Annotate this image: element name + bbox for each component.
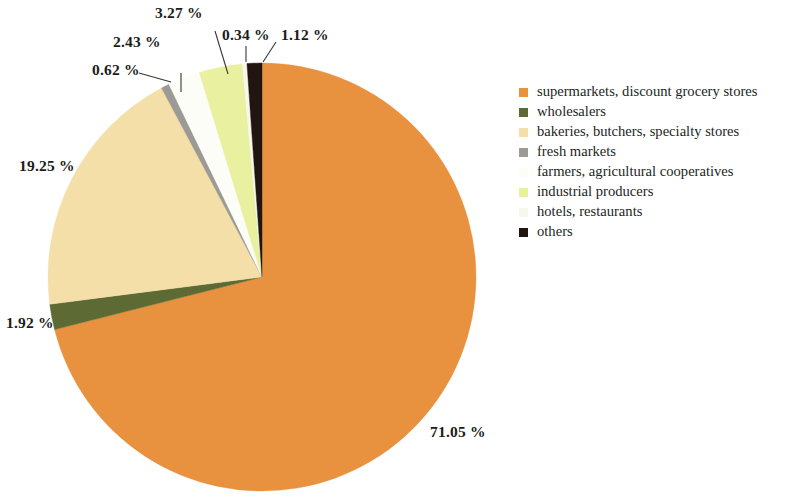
pie-label-wholesalers: 1.92 % bbox=[6, 314, 54, 332]
pie-label-bakeries-butchers: 19.25 % bbox=[19, 157, 75, 175]
legend-swatch-icon bbox=[519, 208, 528, 217]
legend-item-fresh-markets[interactable]: fresh markets bbox=[519, 142, 787, 161]
leader-line-fresh-markets bbox=[139, 73, 171, 82]
legend-item-label: industrial producers bbox=[537, 182, 653, 201]
pie-label-industrial-producers: 3.27 % bbox=[155, 4, 203, 22]
legend-item-label: supermarkets, discount grocery stores bbox=[537, 82, 757, 101]
legend-item-hotels-restaurants[interactable]: hotels, restaurants bbox=[519, 202, 787, 221]
pie-label-hotels-restaurants: 0.34 % bbox=[222, 26, 270, 44]
pie-slices-group bbox=[48, 63, 476, 491]
legend-item-label: wholesalers bbox=[537, 102, 606, 121]
legend-item-farmers-agricultural-cooperatives[interactable]: farmers, agricultural cooperatives bbox=[519, 162, 787, 181]
legend-swatch-icon bbox=[519, 88, 528, 97]
pie-label-farmers-cooperatives: 2.43 % bbox=[113, 33, 161, 51]
legend-item-wholesalers[interactable]: wholesalers bbox=[519, 102, 787, 121]
leader-line-others bbox=[263, 42, 276, 62]
pie-label-supermarkets: 71.05 % bbox=[430, 423, 486, 441]
legend-item-label: bakeries, butchers, specialty stores bbox=[537, 122, 739, 141]
legend-swatch-icon bbox=[519, 168, 528, 177]
legend-item-industrial-producers[interactable]: industrial producers bbox=[519, 182, 787, 201]
legend-item-supermarkets-discount-grocery-stores[interactable]: supermarkets, discount grocery stores bbox=[519, 82, 787, 101]
legend-item-bakeries-butchers-specialty-stores[interactable]: bakeries, butchers, specialty stores bbox=[519, 122, 787, 141]
pie-label-others: 1.12 % bbox=[281, 26, 329, 44]
legend-swatch-icon bbox=[519, 228, 528, 237]
legend-swatch-icon bbox=[519, 128, 528, 137]
legend-item-others[interactable]: others bbox=[519, 222, 787, 241]
legend-item-label: farmers, agricultural cooperatives bbox=[537, 162, 734, 181]
legend-swatch-icon bbox=[519, 188, 528, 197]
pie-label-fresh-markets: 0.62 % bbox=[92, 61, 140, 79]
chart-legend: supermarkets, discount grocery storeswho… bbox=[519, 82, 787, 242]
legend-item-label: others bbox=[537, 222, 573, 241]
legend-swatch-icon bbox=[519, 148, 528, 157]
pie-chart-figure: 3.27 % 0.34 % 1.12 % 2.43 % 0.62 % 19.25… bbox=[0, 0, 790, 503]
legend-item-label: hotels, restaurants bbox=[537, 202, 642, 221]
legend-swatch-icon bbox=[519, 108, 528, 117]
legend-item-label: fresh markets bbox=[537, 142, 616, 161]
